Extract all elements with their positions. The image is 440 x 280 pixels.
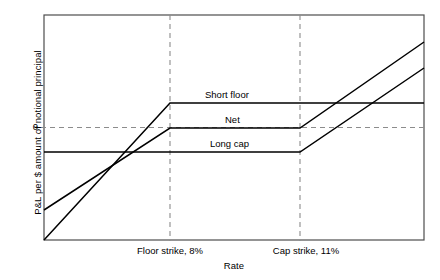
series-label-long-cap: Long cap (207, 138, 252, 149)
x-axis-label: Rate (184, 260, 284, 271)
y-axis-tick-zero: 0 (24, 121, 38, 132)
figure-container: P&L per $ amount of notional principal R… (0, 0, 440, 280)
x-axis-tick-cap-strike: Cap strike, 11% (256, 245, 356, 256)
x-axis-tick-floor-strike: Floor strike, 8% (120, 245, 220, 256)
series-line-net (44, 42, 424, 210)
y-axis-label: P&L per $ amount of notional principal (32, 33, 43, 233)
series-label-short-floor: Short floor (202, 89, 252, 100)
series-label-net: Net (222, 114, 243, 125)
